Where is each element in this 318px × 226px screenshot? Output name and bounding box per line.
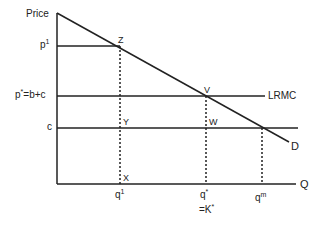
point-w-label: W — [209, 118, 218, 127]
qstar-base: q — [200, 189, 206, 200]
pstar-base: p — [15, 89, 21, 100]
point-x-label: X — [123, 174, 129, 183]
qm-label: qm — [255, 193, 266, 203]
point-z-label: Z — [118, 36, 124, 45]
diagram-canvas — [0, 0, 318, 226]
p1-label: p1 — [40, 40, 49, 50]
point-y-label: Y — [123, 118, 129, 127]
q1-sup: 1 — [121, 188, 125, 195]
p1-base: p — [40, 39, 46, 50]
c-label: c — [47, 122, 52, 132]
demand-label: D — [291, 141, 299, 152]
qm-sup: m — [261, 191, 267, 198]
qm-base: q — [255, 192, 261, 203]
q1-base: q — [115, 189, 121, 200]
lrmc-label: LRMC — [268, 91, 296, 101]
kstar-base: =K — [199, 204, 212, 215]
pstar-sup: * — [21, 88, 24, 95]
x-axis-label: Q — [300, 179, 309, 190]
pstar-label: p*=b+c — [15, 90, 46, 100]
point-v-label: V — [204, 86, 210, 95]
kstar-sup: * — [212, 203, 215, 210]
pstar-rest: =b+c — [23, 89, 45, 100]
p1-sup: 1 — [46, 38, 50, 45]
y-axis-label: Price — [26, 9, 49, 19]
demand-curve — [57, 13, 289, 142]
kstar-label: =K* — [199, 205, 214, 215]
q1-label: q1 — [115, 190, 124, 200]
qstar-sup: * — [206, 188, 209, 195]
qstar-label: q* — [200, 190, 208, 200]
